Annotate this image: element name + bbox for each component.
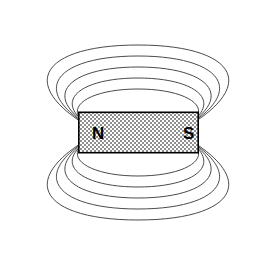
- magnetic-field-diagram: N S: [0, 0, 277, 262]
- north-pole-label: N: [92, 124, 104, 143]
- field-line-top-3: [65, 67, 211, 117]
- field-line-top-4: [56, 56, 219, 119]
- south-pole-label: S: [183, 124, 194, 143]
- field-lines-canvas: N S: [0, 0, 277, 262]
- field-line-bottom-1: [77, 150, 198, 176]
- field-line-top-2: [72, 78, 204, 116]
- field-line-bottom-3: [65, 148, 211, 198]
- field-line-bottom-2: [72, 149, 204, 187]
- field-line-bottom-4: [56, 146, 219, 209]
- field-line-top-1: [77, 89, 198, 115]
- bar-magnet: N S: [79, 112, 198, 152]
